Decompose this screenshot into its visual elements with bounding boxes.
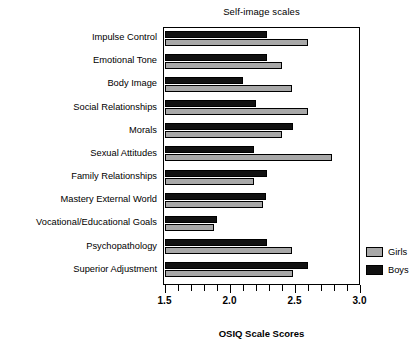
x-tick-minor: [269, 285, 270, 291]
bar-group: [165, 100, 360, 121]
bar-girls: [165, 85, 292, 92]
bar-boys: [165, 239, 268, 246]
x-tick-minor: [191, 285, 192, 291]
category-label: Emotional Tone: [93, 55, 157, 66]
category-label: Social Relationships: [73, 102, 157, 113]
bar-boys: [165, 262, 308, 269]
bars-layer: [165, 29, 360, 284]
bar-girls: [165, 224, 214, 231]
bar-chart: Self-image scales Impulse ControlEmotion…: [0, 0, 420, 351]
bar-group: [165, 216, 360, 237]
legend-swatch-girls: [366, 247, 383, 257]
bar-boys: [165, 77, 243, 84]
x-tick-label: 3.0: [353, 295, 367, 307]
legend-swatch-boys: [366, 265, 383, 275]
legend-label-girls: Girls: [388, 246, 407, 258]
bar-boys: [165, 100, 256, 107]
x-tick-minor: [334, 285, 335, 291]
bar-boys: [165, 123, 294, 130]
category-label: Mastery External World: [61, 194, 157, 205]
bar-group: [165, 77, 360, 98]
bar-boys: [165, 170, 268, 177]
chart-title: Self-image scales: [163, 6, 360, 18]
legend-label-boys: Boys: [388, 264, 409, 276]
bar-girls: [165, 247, 292, 254]
x-tick-minor: [282, 285, 283, 291]
bar-boys: [165, 193, 266, 200]
x-tick-minor: [347, 285, 348, 291]
bar-group: [165, 262, 360, 283]
legend-item-girls: Girls: [366, 245, 418, 263]
bar-group: [165, 146, 360, 167]
x-tick-major: [360, 285, 361, 293]
x-tick-minor: [204, 285, 205, 291]
x-tick-minor: [256, 285, 257, 291]
bar-boys: [165, 54, 268, 61]
bar-girls: [165, 270, 294, 277]
bar-group: [165, 54, 360, 75]
legend-item-boys: Boys: [366, 263, 418, 281]
category-axis-labels: Impulse ControlEmotional ToneBody ImageS…: [0, 28, 160, 283]
bar-girls: [165, 108, 308, 115]
bar-girls: [165, 62, 282, 69]
bar-girls: [165, 154, 333, 161]
bar-group: [165, 193, 360, 214]
category-label: Impulse Control: [92, 32, 157, 43]
bar-boys: [165, 146, 255, 153]
bar-boys: [165, 216, 217, 223]
category-label: Morals: [129, 125, 157, 136]
bar-boys: [165, 31, 268, 38]
bar-girls: [165, 201, 264, 208]
category-label: Family Relationships: [71, 171, 157, 182]
x-tick-minor: [178, 285, 179, 291]
x-tick-label: 2.5: [288, 295, 302, 307]
bar-group: [165, 239, 360, 260]
category-label: Superior Adjustment: [73, 264, 157, 275]
x-tick-minor: [217, 285, 218, 291]
bar-group: [165, 123, 360, 144]
x-tick-minor: [243, 285, 244, 291]
x-tick-minor: [321, 285, 322, 291]
bar-girls: [165, 131, 282, 138]
category-label: Sexual Attitudes: [90, 148, 157, 159]
chart-legend: Girls Boys: [366, 245, 418, 281]
category-label: Vocational/Educational Goals: [36, 217, 157, 228]
bar-group: [165, 31, 360, 52]
bar-girls: [165, 178, 255, 185]
x-tick-label: 1.5: [158, 295, 172, 307]
x-tick-major: [230, 285, 231, 293]
x-tick-label: 2.0: [223, 295, 237, 307]
x-tick-major: [295, 285, 296, 293]
bar-girls: [165, 39, 308, 46]
x-tick-major: [165, 285, 166, 293]
bar-group: [165, 170, 360, 191]
category-label: Body Image: [107, 78, 157, 89]
x-axis-title: OSIQ Scale Scores: [163, 328, 360, 340]
x-tick-minor: [308, 285, 309, 291]
category-label: Psychopathology: [86, 241, 157, 252]
